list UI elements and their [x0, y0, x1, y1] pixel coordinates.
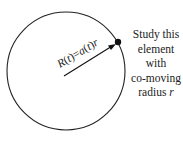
annotation-line-2: element — [128, 42, 183, 57]
radius-arrowhead-icon — [108, 44, 116, 50]
element-dot — [115, 39, 121, 45]
annotation-radius-word: radius — [138, 86, 169, 98]
annotation-line-1: Study this — [128, 27, 183, 42]
annotation-line-4: co-moving — [128, 71, 183, 86]
radius-formula-label: R(t)=a(t)r — [54, 36, 101, 71]
annotation-line-5: radius r — [128, 85, 183, 100]
annotation-radius-var: r — [169, 86, 173, 98]
side-annotation: Study this element with co-moving radius… — [128, 27, 183, 100]
sphere-circle — [7, 12, 125, 130]
annotation-line-3: with — [128, 56, 183, 71]
